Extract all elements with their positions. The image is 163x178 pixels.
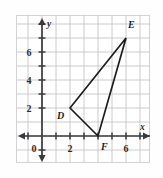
coordinate-plane-svg: y x 2 4 6 0 2 6 D E F (0, 0, 163, 178)
vertex-label-d: D (56, 110, 64, 121)
vertex-label-e: E (127, 19, 135, 30)
x-tick-label-2: 2 (68, 143, 73, 154)
y-axis-label: y (46, 19, 52, 29)
vertex-label-f: F (100, 141, 108, 152)
y-tick-label-2: 2 (27, 103, 32, 114)
x-tick-label-6: 6 (124, 143, 129, 154)
y-tick-label-4: 4 (27, 75, 32, 86)
plot-frame (17, 16, 150, 163)
x-axis-label: x (139, 122, 145, 132)
x-tick-label-0: 0 (32, 143, 37, 154)
y-tick-label-6: 6 (27, 47, 32, 58)
screenshot-root: y x 2 4 6 0 2 6 D E F (0, 0, 163, 178)
coordinate-plane-figure: y x 2 4 6 0 2 6 D E F (0, 0, 163, 178)
